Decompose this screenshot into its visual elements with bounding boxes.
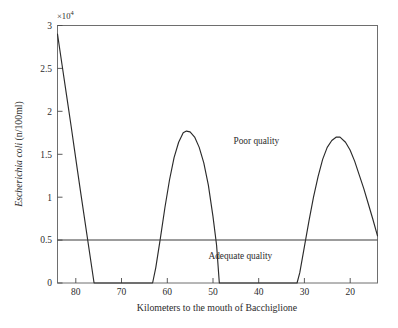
- y-axis-exponent-base: ×10: [57, 11, 70, 21]
- y-tick-label-2: 2: [47, 107, 52, 117]
- y-axis-title: Escherichia coli (n/100ml): [13, 101, 25, 208]
- y-axis-title-species: Escherichia coli: [13, 143, 24, 208]
- y-tick-label-0point5: 0.5: [40, 235, 52, 245]
- x-tick-label-40: 40: [254, 287, 264, 297]
- x-tick-label-20: 20: [345, 287, 355, 297]
- x-axis-title: Kilometers to the mouth of Bacchiglione: [137, 302, 298, 313]
- y-tick-label-1: 1: [47, 193, 52, 203]
- y-tick-label-2point5: 2.5: [40, 64, 52, 74]
- x-tick-label-70: 70: [117, 287, 127, 297]
- adequate-quality-annotation: Adequate quality: [208, 251, 272, 261]
- y-tick-label-0: 0: [47, 278, 52, 288]
- y-tick-label-3: 3: [47, 21, 52, 31]
- y-axis-title-units: (n/100ml): [13, 101, 25, 143]
- x-tick-label-30: 30: [300, 287, 310, 297]
- poor-quality-annotation: Poor quality: [234, 136, 280, 146]
- x-tick-label-60: 60: [163, 287, 173, 297]
- chart-figure: ×104 0 0.5 1 1.5 2 2.5 3: [0, 0, 398, 328]
- escherichia-coli-line-chart: ×104 0 0.5 1 1.5 2 2.5 3: [0, 0, 398, 328]
- x-tick-label-50: 50: [208, 287, 218, 297]
- y-tick-label-1point5: 1.5: [40, 150, 52, 160]
- x-tick-label-80: 80: [71, 287, 81, 297]
